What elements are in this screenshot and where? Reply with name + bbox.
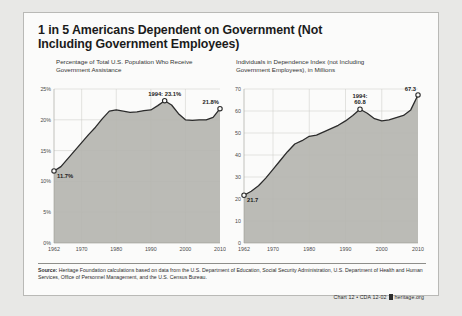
right-chart-panel: 0102030405060701962197019801990200020102…	[229, 77, 429, 255]
percentage-of-population-chart: 0%5%10%15%20%25%196219701980199020002010…	[36, 77, 226, 257]
svg-text:10%: 10%	[40, 178, 51, 184]
svg-text:10: 10	[235, 218, 241, 224]
svg-text:1980: 1980	[110, 246, 122, 252]
svg-text:1990: 1990	[340, 246, 352, 252]
svg-text:30: 30	[235, 174, 241, 180]
svg-text:67.3: 67.3	[405, 86, 417, 92]
footer-divider	[38, 263, 426, 264]
svg-text:20: 20	[235, 196, 241, 202]
right-chart-subtitle: Individuals in Dependence Index (not Inc…	[236, 58, 386, 73]
svg-text:60.8: 60.8	[354, 99, 366, 105]
svg-text:50: 50	[235, 130, 241, 136]
svg-text:15%: 15%	[40, 148, 51, 154]
credit-website: heritage.org	[395, 294, 424, 300]
svg-text:70: 70	[235, 86, 241, 92]
svg-text:25%: 25%	[40, 86, 51, 92]
svg-text:1962: 1962	[48, 246, 60, 252]
svg-text:1970: 1970	[267, 246, 279, 252]
left-chart-panel: 0%5%10%15%20%25%196219701980199020002010…	[36, 77, 236, 255]
svg-text:20%: 20%	[40, 117, 51, 123]
chart-credit: Chart 12 • CDA 12-02heritage.org	[333, 294, 424, 300]
svg-text:40: 40	[235, 152, 241, 158]
svg-text:2000: 2000	[180, 246, 192, 252]
svg-text:0: 0	[238, 240, 241, 246]
svg-text:21.8%: 21.8%	[203, 99, 219, 105]
svg-text:1994: 23.1%: 1994: 23.1%	[148, 91, 181, 97]
svg-text:1990: 1990	[145, 246, 157, 252]
source-label: Source:	[38, 267, 57, 273]
svg-text:5%: 5%	[43, 209, 51, 215]
svg-text:11.7%: 11.7%	[57, 173, 73, 179]
svg-text:1980: 1980	[303, 246, 315, 252]
svg-text:2000: 2000	[376, 246, 388, 252]
svg-text:1970: 1970	[76, 246, 88, 252]
svg-text:0%: 0%	[43, 240, 51, 246]
source-note: Source: Heritage Foundation calculations…	[38, 267, 426, 280]
svg-text:60: 60	[235, 108, 241, 114]
source-text: Heritage Foundation calculations based o…	[38, 267, 423, 280]
svg-text:1962: 1962	[238, 246, 250, 252]
left-chart-subtitle: Percentage of Total U.S. Population Who …	[56, 58, 206, 73]
individuals-in-dependence-index-chart: 0102030405060701962197019801990200020102…	[229, 77, 425, 257]
svg-text:21.7: 21.7	[247, 197, 258, 203]
svg-text:2010: 2010	[214, 246, 226, 252]
page-title: 1 in 5 Americans Dependent on Government…	[38, 23, 368, 51]
heritage-logo-icon	[389, 294, 393, 300]
credit-chart-number: Chart 12 • CDA 12-02	[333, 294, 386, 300]
chart-card: 1 in 5 Americans Dependent on Government…	[23, 12, 439, 296]
svg-text:2010: 2010	[412, 246, 424, 252]
